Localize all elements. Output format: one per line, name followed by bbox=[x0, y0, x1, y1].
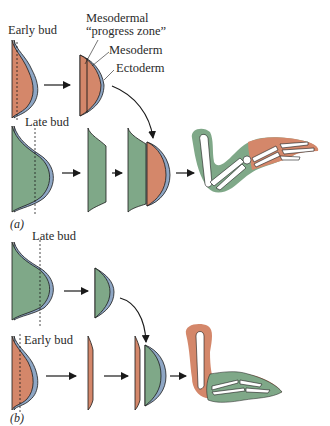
limb-bud-transplant-figure: Early bud Mesodermal “progress zone” Mes… bbox=[0, 0, 330, 426]
recombinant-a bbox=[128, 128, 170, 212]
panel-label-a: (a) bbox=[10, 218, 24, 231]
label-ectoderm: Ectoderm bbox=[116, 62, 165, 75]
label-early-bud-b: Early bud bbox=[24, 334, 73, 347]
label-mesoderm: Mesoderm bbox=[109, 44, 162, 57]
panel-label-b: (b) bbox=[10, 412, 24, 425]
resulting-limb-a bbox=[192, 129, 319, 193]
recombinant-b bbox=[135, 336, 166, 410]
late-bud-stump-a bbox=[88, 128, 106, 212]
curved-transplant-arrow-a bbox=[112, 86, 153, 138]
early-bud-stump-b bbox=[88, 336, 93, 410]
label-late-bud-a: Late bud bbox=[25, 116, 69, 129]
label-late-bud-b: Late bud bbox=[32, 230, 76, 243]
late-bud-b bbox=[12, 240, 53, 326]
leader-ectoderm bbox=[104, 70, 114, 80]
curved-transplant-arrow-b bbox=[120, 298, 146, 342]
early-bud-a bbox=[12, 40, 38, 120]
late-tip-b bbox=[95, 268, 114, 318]
figure-drawing bbox=[0, 0, 330, 426]
label-early-bud-a: Early bud bbox=[8, 24, 57, 37]
leader-mesoderm bbox=[92, 52, 109, 66]
late-bud-a bbox=[12, 126, 53, 216]
leader-progress-zone bbox=[85, 40, 98, 64]
label-progress-zone: “progress zone” bbox=[86, 25, 166, 38]
resulting-limb-b bbox=[186, 324, 282, 402]
progress-zone-tip-a bbox=[80, 55, 104, 116]
